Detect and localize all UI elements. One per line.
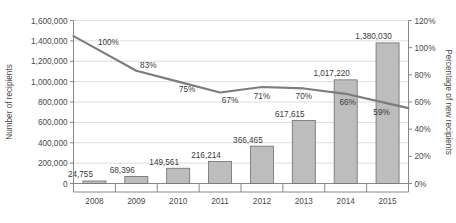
left-axis-tick-label: 1,600,000 [31,17,68,26]
line-value-label: 59% [373,108,389,117]
category-tick-label: 2015 [378,197,397,206]
category-tick-label: 2009 [127,197,146,206]
left-axis-tick-label: 200,000 [38,159,68,168]
bar-value-label: 1,017,220 [313,69,350,78]
bar [125,177,148,184]
bar-series [83,43,399,184]
left-axis-tick-label: 1,000,000 [31,78,68,87]
bar [209,161,232,183]
category-tick-label: 2008 [85,197,104,206]
right-axis-tick-label: 120% [415,17,436,26]
line-value-label: 70% [296,92,312,101]
line-value-label: 71% [254,92,270,101]
right-axis-title: Percentage of new recipients [444,49,453,155]
right-axis-tick-label: 80% [415,71,431,80]
category-tick-label: 2010 [169,197,188,206]
right-axis-tick-label: 0% [415,180,427,189]
trend-line [74,36,409,108]
left-axis-tick-label: 800,000 [38,98,68,107]
line-value-label: 83% [140,61,156,70]
combo-chart: 24,75568,396149,561216,214366,465617,615… [0,0,456,223]
left-axis-tick-label: 600,000 [38,118,68,127]
left-axis-tick-label: 400,000 [38,139,68,148]
left-axis-tick-label: 1,400,000 [31,37,68,46]
category-tick-label: 2011 [211,197,229,206]
bar-value-label: 24,755 [68,170,93,179]
bar [250,146,273,183]
bar-value-label: 216,214 [191,151,221,160]
right-axis-tick-label: 20% [415,152,431,161]
bar-value-label: 366,465 [233,136,263,145]
line-value-label: 75% [179,85,195,94]
bar-value-label: 1,380,030 [355,32,392,41]
right-axis-tick-label: 100% [415,44,436,53]
left-axis-tick-label: 0 [63,180,68,189]
bar-value-label: 149,561 [149,158,179,167]
right-axis-tick-label: 40% [415,125,431,134]
chart-container: 24,75568,396149,561216,214366,465617,615… [0,0,456,223]
left-axis-title: Number of recipients [5,64,14,140]
line-value-label: 100% [98,38,119,47]
bar-value-label: 617,615 [275,110,305,119]
left-axis-tick-label: 1,200,000 [31,57,68,66]
category-tick-label: 2012 [253,197,272,206]
line-value-label: 66% [339,98,355,107]
bar [292,121,315,184]
line-value-label: 67% [222,96,238,105]
bar-value-label: 68,396 [110,166,135,175]
category-tick-label: 2013 [295,197,314,206]
right-axis-tick-label: 60% [415,98,431,107]
category-tick-label: 2014 [337,197,356,206]
bar [167,168,190,183]
